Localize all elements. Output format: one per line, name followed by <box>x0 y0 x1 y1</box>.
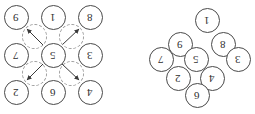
diagram-canvas: 9 1 8 7 5 3 2 6 4 1 9 <box>0 0 255 114</box>
node-circle[interactable]: 6 <box>185 83 210 108</box>
node-label: 1 <box>204 15 210 26</box>
diamond-grid-diagram: 1 9 8 7 5 3 2 4 6 <box>0 0 255 114</box>
node-label: 9 <box>177 39 183 50</box>
node-label: 8 <box>220 39 226 50</box>
node-label: 6 <box>194 90 200 101</box>
node-label: 7 <box>158 54 164 65</box>
node-circle[interactable]: 3 <box>226 47 251 72</box>
node-label: 5 <box>193 54 199 65</box>
node-circle[interactable]: 1 <box>195 8 220 33</box>
node-label: 3 <box>235 54 241 65</box>
node-label: 2 <box>175 73 181 84</box>
node-label: 4 <box>209 73 215 84</box>
